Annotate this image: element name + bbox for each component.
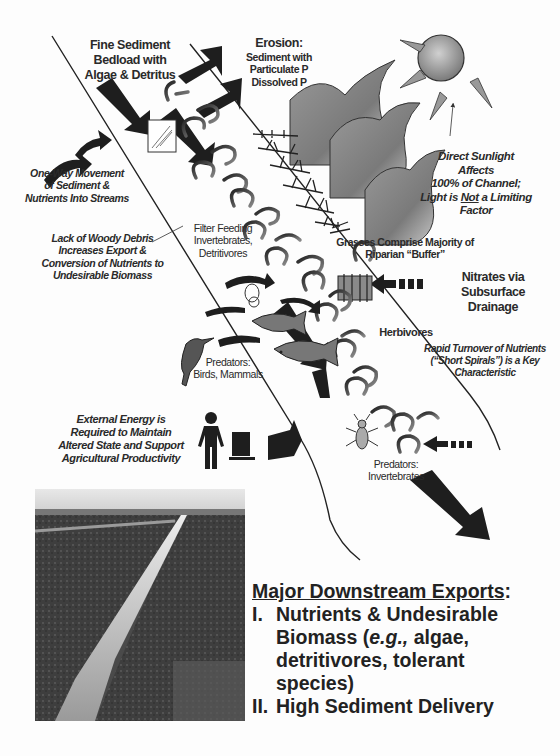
- exports-title: Major Downstream Exports: [252, 580, 504, 602]
- insect-icon: [346, 414, 378, 449]
- downstream-exports: Major Downstream Exports: I. Nutrients &…: [252, 580, 557, 718]
- photo-rendering: [35, 489, 245, 721]
- algae-box-icon: [148, 120, 176, 152]
- person-icon: [198, 412, 224, 469]
- sunlight-label: Direct Sunlight Affects 100% of Channel;…: [420, 150, 532, 218]
- fine-sediment-label: Fine Sediment Bedload with Algae & Detri…: [80, 38, 180, 82]
- woody-debris-label: Lack of Woody Debris Increases Export & …: [40, 232, 165, 282]
- drainage-ditch-photo: [35, 489, 245, 721]
- erosion-label: Erosion: Sediment with Particulate P Dis…: [244, 36, 314, 88]
- snail-icon: [245, 284, 259, 307]
- herbivores-label: Herbivores: [376, 326, 436, 339]
- filter-feeding-label: Filter Feeding Invertebrates, Detritivor…: [188, 222, 258, 259]
- one-way-movement-label: One-Way Movement of Sediment & Nutrients…: [22, 167, 132, 204]
- drain-tile-icon: [338, 274, 372, 302]
- nitrates-label: Nitrates via Subsurface Drainage: [453, 270, 533, 314]
- stream-ecosystem-diagram: Fine Sediment Bedload with Algae & Detri…: [0, 0, 560, 756]
- predators-invertebrates-label: Predators: Invertebrates: [360, 458, 432, 483]
- export-item-2: II. High Sediment Delivery: [252, 695, 557, 718]
- sun-icon: [400, 35, 492, 136]
- external-energy-label: External Energy is Required to Maintain …: [56, 413, 186, 465]
- rapid-turnover-label: Rapid Turnover of Nutrients (“Short Spir…: [420, 343, 550, 378]
- predators-birds-label: Predators: Birds, Mammals: [188, 356, 268, 381]
- export-item-1: I. Nutrients & Undesirable Biomass (e.g.…: [252, 603, 557, 695]
- grasses-label: Grasses Comprise Majority of Riparian “B…: [330, 236, 480, 261]
